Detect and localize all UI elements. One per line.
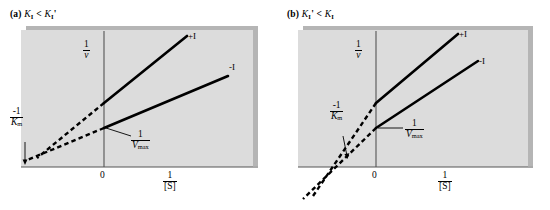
panel-a-x-axis-label: 1 [S] [163, 171, 177, 192]
panel-a-x-axis-label-denominator: [S] [163, 181, 177, 192]
panel-a-y-axis-label-numerator: 1 [83, 40, 90, 50]
panel-b-x-axis-label-denominator: [S] [438, 181, 452, 192]
panel-a-y-intercept-numerator: 1 [131, 130, 150, 140]
panel-a-plot-svg [0, 0, 275, 210]
panel-b-curve-plus-I [376, 34, 458, 103]
panel-a-origin-label: 0 [100, 170, 105, 180]
panel-b-y-intercept-annotation: 1 Vmax [405, 119, 424, 140]
panel-b-curve-label-minus-I: -I [479, 56, 485, 66]
panel-b-curve-minus-I-extrapolation [303, 128, 376, 199]
panel-b-x-axis-label-numerator: 1 [438, 171, 452, 181]
panel-b-y-axis-label-numerator: 1 [355, 40, 362, 50]
panel-a-x-intercept-annotation: -1 Km [10, 107, 23, 128]
panel-a-y-intercept-denominator-sub: max [138, 143, 149, 150]
panel-a-x-intercept-denominator-sub: m [17, 120, 22, 127]
panel-b-origin-label: 0 [372, 170, 377, 180]
panel-b-y-intercept-numerator: 1 [405, 119, 424, 129]
panel-a-curve-plus-I [104, 36, 187, 103]
panel-a-curve-label-minus-I: -I [229, 62, 235, 72]
panel-b-y-axis-label-denominator: v [355, 50, 362, 61]
panel-a-curve-minus-I [104, 76, 228, 128]
panel-b-x-axis-label: 1 [S] [438, 171, 452, 192]
panel-b-x-intercept-numerator: -1 [330, 101, 343, 111]
panel-a-y-axis-label: 1 v [83, 40, 90, 61]
panel-b-curve-minus-I [376, 61, 478, 128]
panel-a-curve-plus-I-extrapolation [37, 103, 104, 158]
panel-a-curve-label-plus-I: +I [188, 31, 196, 41]
panel-a-curve-minus-I-extrapolation [25, 128, 104, 161]
panel-b-plot-svg [275, 0, 550, 210]
panel-b-curve-label-plus-I: +I [459, 29, 467, 39]
panel-a-x-intercept-arrowhead [23, 160, 28, 166]
panel-b-x-intercept-leader [343, 136, 347, 156]
panel-b-y-intercept-denominator-sub: max [412, 132, 423, 139]
panel-b: (b) KI' < KI 1 v 1 [S] 0 [275, 0, 550, 210]
panel-a-y-intercept-annotation: 1 Vmax [131, 130, 150, 151]
panel-a-y-axis-label-denominator: v [83, 50, 90, 61]
panel-a-x-intercept-numerator: -1 [10, 107, 23, 117]
panel-b-x-intercept-denominator-sub: m [337, 114, 342, 121]
panel-b-x-intercept-annotation: -1 Km [330, 101, 343, 122]
panel-b-y-axis-label: 1 v [355, 40, 362, 61]
panel-b-curve-plus-I-extrapolation [313, 103, 376, 196]
panel-a-x-axis-label-numerator: 1 [163, 171, 177, 181]
panel-a-y-intercept-leader [106, 128, 131, 136]
panel-a: (a) KI < KI' 1 v 1 [S] [0, 0, 275, 210]
